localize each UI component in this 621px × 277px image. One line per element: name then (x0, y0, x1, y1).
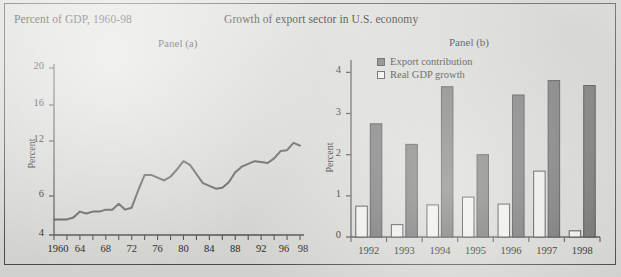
bar-export-contribution-1992 (370, 124, 382, 237)
panel-b-xtick-1996: 1996 (491, 245, 531, 256)
bar-real-gdp-growth-1992 (356, 206, 368, 237)
panel-a-xtick-98: 98 (283, 243, 323, 254)
legend-label-gdp: Real GDP growth (390, 69, 465, 80)
panel-a-ytick-20: 20 (18, 60, 44, 71)
bar-real-gdp-growth-1996 (498, 204, 510, 237)
panel-b-xtick-1994: 1994 (420, 245, 460, 256)
bar-real-gdp-growth-1997 (534, 171, 546, 237)
bar-real-gdp-growth-1994 (427, 205, 439, 237)
panel-a-ytick-16: 16 (18, 97, 44, 108)
bar-export-contribution-1998 (584, 86, 596, 237)
panel-b-ytick-4: 4 (315, 64, 341, 75)
panel-b-xtick-1997: 1997 (527, 245, 567, 256)
legend-swatch-export-icon (377, 58, 385, 66)
legend-item-real-gdp-growth: Real GDP growth (377, 69, 465, 80)
panel-b-plot (0, 0, 621, 277)
panel-b-xtick-1992: 1992 (349, 245, 389, 256)
bar-real-gdp-growth-1998 (569, 231, 581, 237)
panel-b-xtick-1995: 1995 (456, 245, 496, 256)
bar-real-gdp-growth-1993 (391, 225, 403, 237)
panel-b-ytick-1: 1 (315, 188, 341, 199)
bar-export-contribution-1997 (548, 81, 560, 237)
legend-swatch-gdp-icon (377, 71, 385, 79)
bar-export-contribution-1996 (513, 95, 525, 237)
bar-export-contribution-1995 (477, 155, 489, 237)
bar-real-gdp-growth-1995 (463, 197, 475, 237)
bar-export-contribution-1994 (441, 87, 453, 237)
panel-a-ytick-12: 12 (18, 133, 44, 144)
legend-item-export-contribution: Export contribution (377, 56, 473, 67)
panel-b-ytick-2: 2 (315, 147, 341, 158)
panel-b-xtick-1993: 1993 (384, 245, 424, 256)
panel-a-ytick-4: 4 (18, 227, 44, 238)
panel-b-ytick-3: 3 (315, 106, 341, 117)
figure-container: Percent of GDP, 1960-98 Growth of export… (0, 0, 621, 277)
panel-b-ytick-0: 0 (315, 229, 341, 240)
bar-export-contribution-1993 (406, 144, 418, 237)
panel-a-ytick-6: 6 (18, 188, 44, 199)
panel-b-xtick-1998: 1998 (562, 245, 602, 256)
legend-label-export: Export contribution (390, 56, 473, 67)
